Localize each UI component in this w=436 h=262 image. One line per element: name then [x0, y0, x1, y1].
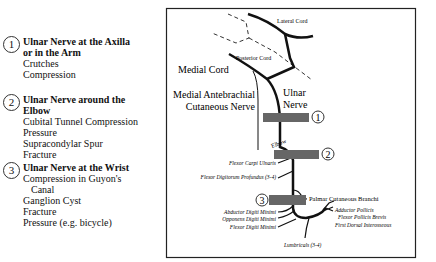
label-fdp: Flexor Digitorum Profundus (3-4) — [200, 174, 277, 181]
branch-lumbricals — [305, 218, 309, 238]
label-fdi: First Dorsal Interosseous — [334, 222, 391, 228]
ulnar-nerve-diagram: 1 2 3 Lateral Cord Posterior Cord Medial… — [0, 0, 436, 262]
label-lateral-cord: Lateral Cord — [277, 18, 308, 24]
label-ulnar-1: Ulnar — [283, 87, 306, 98]
label-ulnar-2: Nerve — [283, 99, 308, 110]
label-lumbricals: Lumbricals (3-4) — [283, 242, 322, 249]
label-medial-antebrachial-1: Medial Antebrachial — [173, 89, 255, 100]
label-flexor-dm: Flexor Digiti Minimi — [229, 224, 277, 230]
label-fpb: Flexor Pollicis Brevis — [337, 214, 386, 220]
label-palmar-cutaneous: Palmar Cutaneous Branchi — [309, 195, 379, 202]
branch-fdp — [278, 171, 293, 178]
label-adductor-pollicis: Adductor Pollicis — [334, 207, 374, 213]
lesion-bar-3 — [269, 195, 306, 205]
marker-3-label: 3 — [260, 195, 265, 206]
label-posterior-cord: Posterior Cord — [236, 55, 271, 61]
label-abductor-dm: Abductor Digiti Minimi — [223, 209, 276, 215]
marker-2-label: 2 — [326, 149, 331, 160]
label-flexor-carpi-ulnaris: Flexor Carpi Ulnaris — [228, 160, 276, 166]
marker-1-label: 1 — [316, 112, 321, 123]
diagram-border — [167, 9, 416, 258]
lesion-bar-2 — [274, 150, 319, 159]
label-medial-cord: Medial Cord — [178, 64, 229, 75]
label-medial-antebrachial-2: Cutaneous Nerve — [186, 101, 256, 112]
label-opponens-dm: Opponens Digiti Minimi — [222, 216, 276, 222]
posterior-cord-dashed — [212, 14, 249, 43]
medial-cord-line — [229, 54, 326, 218]
lesion-bar-1 — [263, 113, 309, 122]
